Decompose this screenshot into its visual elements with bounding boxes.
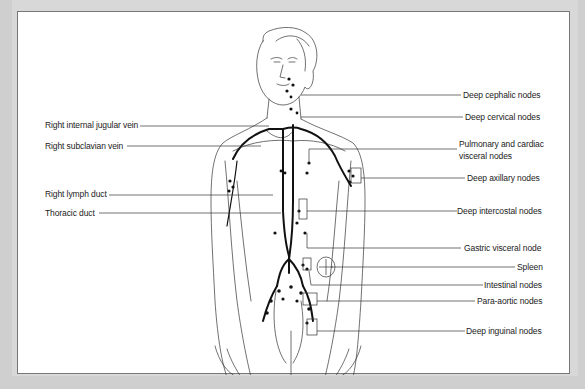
lymph-nodes-icon [227,77,354,324]
label-gastric-visceral-node: Gastric visceral node [464,243,541,253]
label-deep-inguinal-nodes: Deep inguinal nodes [466,326,542,336]
label-deep-cervical-nodes: Deep cervical nodes [465,112,540,122]
left-leader-lines [99,126,281,213]
head-outline-icon [257,27,317,105]
label-deep-cephalic-nodes: Deep cephalic nodes [463,90,541,100]
label-para-aortic-nodes: Para-aortic nodes [477,296,542,306]
label-pulmonary-cardiac-visceral-nodes: Pulmonary and cardiac visceral nodes [459,138,559,162]
label-intestinal-nodes: Intestinal nodes [484,280,542,290]
label-right-internal-jugular-vein: Right internal jugular vein [45,120,138,130]
label-right-subclavian-vein: Right subclavian vein [45,141,123,151]
label-thoracic-duct: Thoracic duct [45,208,95,218]
label-right-lymph-duct: Right lymph duct [45,189,107,199]
label-deep-axillary-nodes: Deep axillary nodes [467,173,540,183]
lymph-vessels-icon [227,125,351,321]
label-deep-intercostal-nodes: Deep intercostal nodes [457,206,542,216]
label-spleen: Spleen [517,262,543,272]
torso-outline-icon [211,118,267,375]
diagram-panel: Right internal jugular vein Right subcla… [17,11,570,374]
